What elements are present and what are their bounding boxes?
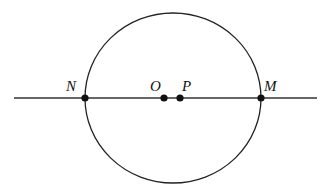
geometry-figure: N O P M: [0, 0, 329, 194]
point-P: [176, 94, 183, 101]
point-N: [81, 94, 88, 101]
point-M: [257, 94, 264, 101]
label-N: N: [65, 78, 77, 94]
label-M: M: [263, 78, 278, 94]
diagram-canvas: N O P M: [0, 0, 329, 194]
label-P: P: [181, 78, 191, 94]
point-O: [160, 94, 167, 101]
label-O: O: [150, 78, 161, 94]
